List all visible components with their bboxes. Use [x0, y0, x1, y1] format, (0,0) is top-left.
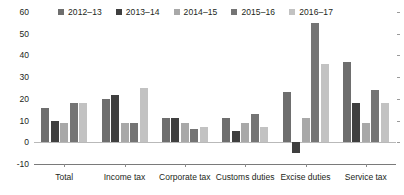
- y-axis-tick-mark: [397, 55, 400, 56]
- bar-chart: 2012–132013–142014–152015–162016–17 6050…: [0, 0, 404, 195]
- y-axis-tick-mark: [397, 77, 400, 78]
- legend-item[interactable]: 2016–17: [289, 7, 333, 17]
- bar[interactable]: [292, 142, 300, 153]
- bar[interactable]: [111, 95, 119, 143]
- bar[interactable]: [121, 123, 129, 143]
- bar[interactable]: [232, 131, 240, 142]
- bar[interactable]: [181, 123, 189, 143]
- y-axis-tick-label: -10: [17, 159, 29, 169]
- x-axis-labels: TotalIncome taxCorporate taxCustoms duti…: [34, 172, 396, 186]
- y-axis-tick-label: 30: [20, 72, 29, 82]
- bar-group: [283, 12, 329, 164]
- bar[interactable]: [70, 103, 78, 142]
- x-axis-tick-mark: [366, 164, 367, 167]
- y-axis-tick-label: 60: [20, 7, 29, 17]
- bar[interactable]: [140, 88, 148, 142]
- legend-swatch-icon: [231, 9, 237, 15]
- chart-legend: 2012–132013–142014–152015–162016–17: [58, 7, 333, 17]
- legend-item[interactable]: 2015–16: [231, 7, 275, 17]
- y-axis-labels: 6050403020100-10: [0, 12, 32, 164]
- legend-swatch-icon: [116, 9, 122, 15]
- legend-swatch-icon: [174, 9, 180, 15]
- bar[interactable]: [102, 99, 110, 142]
- legend-item-label: 2014–15: [184, 7, 218, 17]
- bar[interactable]: [251, 114, 259, 142]
- x-axis-tick-mark: [245, 164, 246, 167]
- y-axis-tick-label: 20: [20, 94, 29, 104]
- bar-group: [162, 12, 208, 164]
- bar[interactable]: [41, 108, 49, 143]
- bar-group: [102, 12, 148, 164]
- y-axis-tick-mark: [397, 12, 400, 13]
- x-axis-category-label: Total: [55, 172, 73, 182]
- y-axis-tick-label: 0: [24, 137, 29, 147]
- x-axis-category-label: Customs duties: [216, 172, 275, 182]
- bar[interactable]: [321, 64, 329, 142]
- legend-item[interactable]: 2013–14: [116, 7, 160, 17]
- bar[interactable]: [343, 62, 351, 142]
- legend-item-label: 2015–16: [241, 7, 275, 17]
- bar[interactable]: [190, 129, 198, 142]
- y-axis-tick-mark: [397, 121, 400, 122]
- bar[interactable]: [311, 23, 319, 142]
- bar[interactable]: [79, 103, 87, 142]
- bar-group: [41, 12, 87, 164]
- bar[interactable]: [381, 103, 389, 142]
- legend-item[interactable]: 2012–13: [58, 7, 102, 17]
- y-axis-tick-mark: [397, 34, 400, 35]
- bar[interactable]: [362, 123, 370, 143]
- bar[interactable]: [171, 118, 179, 142]
- x-axis-tick-mark: [125, 164, 126, 167]
- y-axis-tick-label: 40: [20, 50, 29, 60]
- bar[interactable]: [130, 123, 138, 143]
- legend-item-label: 2012–13: [68, 7, 102, 17]
- legend-item[interactable]: 2014–15: [174, 7, 218, 17]
- bar[interactable]: [371, 90, 379, 142]
- bar[interactable]: [302, 118, 310, 142]
- legend-swatch-icon: [289, 9, 295, 15]
- bar[interactable]: [60, 123, 68, 143]
- y-axis-tick-label: 10: [20, 116, 29, 126]
- y-axis-tick-mark: [397, 142, 400, 143]
- x-axis-tick-mark: [306, 164, 307, 167]
- x-axis-category-label: Excise duties: [280, 172, 330, 182]
- bar-group: [343, 12, 389, 164]
- bar[interactable]: [241, 123, 249, 143]
- bar[interactable]: [51, 121, 59, 143]
- x-axis-category-label: Corporate tax: [159, 172, 211, 182]
- y-axis-tick-mark: [397, 99, 400, 100]
- x-axis-category-label: Income tax: [104, 172, 146, 182]
- zero-line: [34, 142, 396, 143]
- bar[interactable]: [162, 118, 170, 142]
- x-axis-tick-mark: [185, 164, 186, 167]
- y-axis-tick-label: 50: [20, 29, 29, 39]
- bar[interactable]: [283, 92, 291, 142]
- bar[interactable]: [200, 127, 208, 142]
- bar[interactable]: [352, 103, 360, 142]
- bar[interactable]: [260, 127, 268, 142]
- x-axis-category-label: Service tax: [345, 172, 387, 182]
- x-axis-tick-mark: [64, 164, 65, 167]
- x-axis-line: [34, 164, 396, 165]
- legend-item-label: 2013–14: [126, 7, 160, 17]
- plot-area: [34, 12, 396, 164]
- bar[interactable]: [222, 118, 230, 142]
- legend-swatch-icon: [58, 9, 64, 15]
- legend-item-label: 2016–17: [299, 7, 333, 17]
- bar-group: [222, 12, 268, 164]
